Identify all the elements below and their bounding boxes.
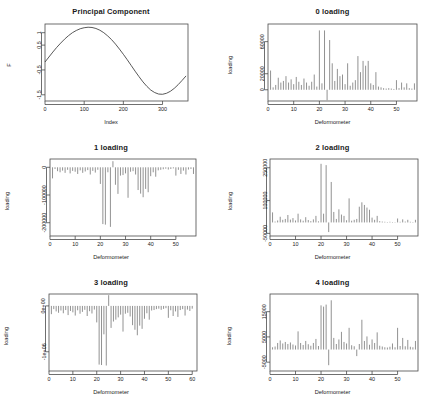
panel-loading-3: 3 loading loading Deformometer 0e+00-1e+… xyxy=(0,271,222,406)
svg-text:0: 0 xyxy=(260,88,266,91)
svg-text:0e+00: 0e+00 xyxy=(41,298,47,313)
panel-principal-component: Principal Component F Index 10.5-0.5-1.5… xyxy=(0,0,222,136)
svg-text:30: 30 xyxy=(118,376,124,382)
svg-text:10: 10 xyxy=(293,241,299,247)
svg-text:30: 30 xyxy=(344,376,350,382)
figure-grid: Principal Component F Index 10.5-0.5-1.5… xyxy=(0,0,443,406)
svg-text:0: 0 xyxy=(48,376,51,382)
svg-text:50: 50 xyxy=(393,106,399,112)
svg-text:10: 10 xyxy=(70,376,76,382)
svg-text:0: 0 xyxy=(269,241,272,247)
svg-text:20: 20 xyxy=(318,241,324,247)
panel-loading-1: 1 loading loading Deformometer 0-100000-… xyxy=(0,136,222,271)
svg-text:50: 50 xyxy=(165,376,171,382)
svg-text:40: 40 xyxy=(369,241,375,247)
svg-text:300: 300 xyxy=(158,106,167,112)
panel-loading-0: 0 loading loading Deformometer 020000600… xyxy=(222,0,443,136)
svg-text:50: 50 xyxy=(173,241,179,247)
panel-loading-2: 2 loading loading Deformometer -50000100… xyxy=(222,136,443,271)
svg-text:60000: 60000 xyxy=(260,34,266,49)
svg-text:20: 20 xyxy=(318,376,324,382)
svg-text:0: 0 xyxy=(267,106,270,112)
y-axis-label: loading xyxy=(226,321,232,351)
svg-text:-1e+06: -1e+06 xyxy=(41,343,47,360)
x-axis-label: Deformometer xyxy=(0,389,222,395)
plot-area-loading-3: 0e+00-1e+060102030405060 xyxy=(0,271,222,406)
svg-text:30: 30 xyxy=(344,241,350,247)
svg-text:40: 40 xyxy=(141,376,147,382)
svg-text:30: 30 xyxy=(342,106,348,112)
x-axis-label: Deformometer xyxy=(222,254,443,260)
svg-text:10: 10 xyxy=(291,106,297,112)
plot-area-loading-1: 0-100000-20000001020304050 xyxy=(0,136,222,271)
plot-area-principal-component: 10.5-0.5-1.50100200300 xyxy=(0,0,222,136)
svg-text:20: 20 xyxy=(94,376,100,382)
svg-text:1: 1 xyxy=(37,31,43,34)
svg-text:40: 40 xyxy=(369,376,375,382)
svg-text:0: 0 xyxy=(42,166,48,169)
svg-text:200: 200 xyxy=(119,106,128,112)
svg-text:250000: 250000 xyxy=(262,159,268,177)
svg-text:50: 50 xyxy=(395,376,401,382)
svg-text:30: 30 xyxy=(123,241,129,247)
svg-text:-50000: -50000 xyxy=(262,225,268,242)
svg-text:40: 40 xyxy=(148,241,154,247)
panel-loading-4: 4 loading loading Deformometer -50005000… xyxy=(222,271,443,406)
svg-text:50: 50 xyxy=(395,241,401,247)
svg-text:0: 0 xyxy=(269,376,272,382)
x-axis-label: Deformometer xyxy=(222,119,443,125)
plot-area-loading-2: -5000010000025000001020304050 xyxy=(222,136,443,271)
svg-text:0.5: 0.5 xyxy=(37,41,43,49)
svg-text:-1.5: -1.5 xyxy=(37,90,43,99)
svg-text:-0.5: -0.5 xyxy=(37,65,43,74)
svg-text:5000: 5000 xyxy=(262,331,268,343)
panel-title: 4 loading xyxy=(222,278,443,287)
svg-text:0: 0 xyxy=(44,106,47,112)
plot-area-loading-0: 0200006000001020304050 xyxy=(222,0,443,136)
svg-text:100: 100 xyxy=(80,106,89,112)
y-axis-label: loading xyxy=(227,186,233,216)
svg-text:60: 60 xyxy=(189,376,195,382)
plot-area-loading-4: -500050001500001020304050 xyxy=(222,271,443,406)
x-axis-label: Index xyxy=(0,119,222,125)
panel-title: 0 loading xyxy=(222,7,443,16)
svg-text:-200000: -200000 xyxy=(42,213,48,233)
svg-text:20000: 20000 xyxy=(260,66,266,81)
panel-title: 2 loading xyxy=(222,143,443,152)
svg-text:-5000: -5000 xyxy=(262,355,268,369)
y-axis-label: loading xyxy=(4,186,10,216)
y-axis-label: loading xyxy=(3,321,9,351)
y-axis-label: F xyxy=(6,50,12,80)
svg-text:20: 20 xyxy=(97,241,103,247)
x-axis-label: Deformometer xyxy=(0,254,222,260)
svg-text:10: 10 xyxy=(72,241,78,247)
svg-text:15000: 15000 xyxy=(262,304,268,319)
panel-title: 3 loading xyxy=(0,278,222,287)
svg-text:40: 40 xyxy=(368,106,374,112)
svg-text:10: 10 xyxy=(293,376,299,382)
svg-text:20: 20 xyxy=(316,106,322,112)
svg-text:0: 0 xyxy=(49,241,52,247)
panel-title: 1 loading xyxy=(0,143,222,152)
x-axis-label: Deformometer xyxy=(222,389,443,395)
y-axis-label: loading xyxy=(227,50,233,80)
svg-text:-100000: -100000 xyxy=(42,185,48,205)
svg-text:100000: 100000 xyxy=(262,192,268,210)
panel-title: Principal Component xyxy=(0,7,222,16)
